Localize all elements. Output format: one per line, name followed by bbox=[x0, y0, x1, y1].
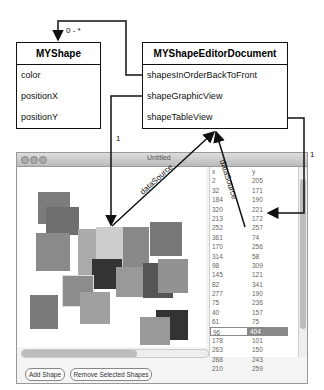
multiplicity-many: 0 - * bbox=[66, 26, 81, 35]
connectors bbox=[0, 0, 324, 390]
multiplicity-one-right: 1 bbox=[310, 150, 314, 159]
multiplicity-one-left: 1 bbox=[116, 134, 120, 143]
